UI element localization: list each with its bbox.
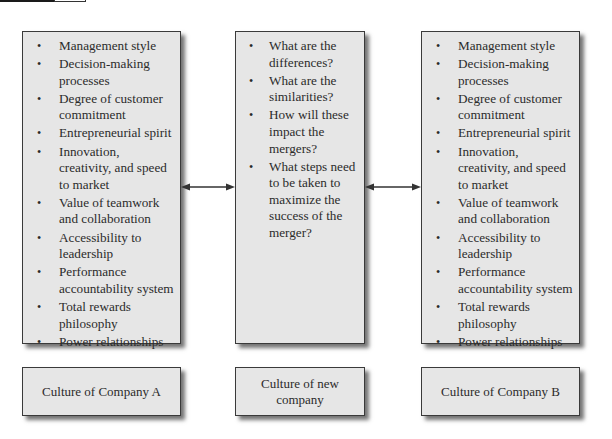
- list-item: Innovation, creativity, and speed to mar…: [422, 144, 573, 194]
- list-item: Power relationships: [422, 334, 573, 351]
- company-b-attribute-list: Management style Decision-making process…: [422, 32, 579, 350]
- list-item: Total rewards philosophy: [23, 299, 174, 332]
- company-b-attributes-box: Management style Decision-making process…: [421, 31, 580, 344]
- new-company-label: Culture of new company: [235, 367, 365, 416]
- double-arrow-icon: [365, 182, 421, 192]
- list-item: Degree of customer commitment: [422, 91, 573, 124]
- list-item: Performance accountability system: [422, 264, 573, 297]
- list-item: Value of teamwork and collaboration: [422, 195, 573, 228]
- double-arrow-a-to-new: [181, 182, 235, 192]
- list-item: What are the differences?: [236, 38, 358, 71]
- list-item: What are the similarities?: [236, 73, 358, 106]
- list-item: Management style: [23, 38, 174, 55]
- list-item: Accessibility to leadership: [23, 230, 174, 263]
- double-arrow-icon: [181, 182, 235, 192]
- new-company-question-list: What are the differences? What are the s…: [236, 32, 364, 242]
- list-item: Value of teamwork and collaboration: [23, 195, 174, 228]
- list-item: Innovation, creativity, and speed to mar…: [23, 144, 174, 194]
- list-item: Power relationships: [23, 334, 174, 351]
- list-item: Degree of customer commitment: [23, 91, 174, 124]
- list-item: Decision-making processes: [23, 56, 174, 89]
- list-item: Management style: [422, 38, 573, 55]
- double-arrow-new-to-b: [365, 182, 421, 192]
- list-item: How will these impact the mergers?: [236, 107, 358, 157]
- company-a-attributes-box: Management style Decision-making process…: [22, 31, 181, 344]
- figure-tab-bar: [0, 0, 54, 2]
- list-item: Entrepreneurial spirit: [422, 125, 573, 142]
- company-a-attribute-list: Management style Decision-making process…: [23, 32, 180, 350]
- list-item: Entrepreneurial spirit: [23, 125, 174, 142]
- list-item: Performance accountability system: [23, 264, 174, 297]
- figure-tab-outline: [54, 0, 86, 2]
- list-item: Accessibility to leadership: [422, 230, 573, 263]
- list-item: Total rewards philosophy: [422, 299, 573, 332]
- new-company-questions-box: What are the differences? What are the s…: [235, 31, 365, 344]
- company-a-label: Culture of Company A: [22, 367, 181, 416]
- company-b-label: Culture of Company B: [421, 367, 580, 416]
- list-item: Decision-making processes: [422, 56, 573, 89]
- list-item: What steps need to be taken to maximize …: [236, 159, 358, 242]
